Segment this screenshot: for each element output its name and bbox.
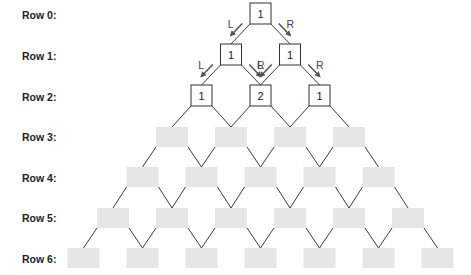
arrow-label: L — [198, 59, 204, 71]
blank-node-box — [304, 248, 336, 268]
edge-line — [113, 187, 127, 208]
edge-line — [277, 187, 291, 208]
direction-arrows: LRLRLR — [198, 18, 324, 77]
row-label-3: Row 3: — [22, 131, 56, 143]
edge-line — [212, 106, 231, 127]
edge-line — [159, 187, 173, 208]
blank-rect — [156, 127, 188, 147]
edge-line — [231, 187, 245, 208]
edge-line — [172, 187, 186, 208]
edge-line — [320, 147, 334, 167]
edge-line — [379, 228, 393, 248]
edge-line — [247, 228, 261, 248]
blank-rect — [186, 248, 218, 268]
edge-line — [202, 65, 221, 85]
row-label-2: Row 2: — [22, 91, 56, 103]
blank-node-box — [274, 208, 306, 228]
nodes: 111121 — [68, 3, 454, 268]
edge-line — [365, 228, 379, 248]
blank-rect — [274, 208, 306, 228]
blank-node-box — [127, 167, 159, 187]
edge-line — [365, 147, 379, 167]
edge-line — [320, 228, 334, 248]
blank-rect — [274, 127, 306, 147]
edge-line — [290, 106, 309, 127]
blank-rect — [422, 248, 454, 268]
edge-line — [143, 147, 157, 167]
arrow-label: L — [257, 59, 263, 71]
edge-line — [395, 187, 409, 208]
edge-line — [349, 187, 363, 208]
edge-line — [202, 147, 216, 167]
blank-node-box — [363, 248, 395, 268]
edge-line — [218, 187, 232, 208]
blank-node-box — [127, 248, 159, 268]
edge-line — [202, 228, 216, 248]
blank-rect — [186, 167, 218, 187]
blank-rect — [215, 127, 247, 147]
edge-line — [143, 228, 157, 248]
blank-rect — [333, 208, 365, 228]
blank-rect — [363, 248, 395, 268]
blank-node-box — [392, 208, 424, 228]
node-box: 1 — [221, 44, 242, 65]
arrow-label: R — [316, 59, 324, 71]
edge-line — [129, 228, 143, 248]
edges — [84, 24, 438, 248]
edge-line — [306, 228, 320, 248]
edge-line — [188, 147, 202, 167]
edge-line — [271, 106, 290, 127]
blank-node-box — [68, 248, 100, 268]
blank-node-box — [156, 208, 188, 228]
edge-line — [231, 24, 250, 44]
node-value: 1 — [228, 49, 234, 61]
edge-line — [336, 187, 350, 208]
blank-node-box — [245, 167, 277, 187]
row-label-0: Row 0: — [22, 9, 56, 21]
blank-node-box — [333, 208, 365, 228]
edge-line — [261, 228, 275, 248]
node-value: 1 — [198, 90, 204, 102]
blank-node-box — [274, 127, 306, 147]
blank-node-box — [245, 248, 277, 268]
blank-rect — [304, 248, 336, 268]
blank-rect — [304, 167, 336, 187]
edge-line — [330, 106, 349, 127]
blank-node-box — [422, 248, 454, 268]
edge-line — [84, 228, 98, 248]
blank-node-box — [186, 167, 218, 187]
node-value: 1 — [316, 90, 322, 102]
blank-node-box — [215, 127, 247, 147]
node-value: 1 — [257, 8, 263, 20]
blank-node-box — [186, 248, 218, 268]
arrow-label: R — [286, 18, 294, 30]
row-label-5: Row 5: — [22, 212, 56, 224]
node-box: 1 — [280, 44, 301, 65]
blank-node-box — [304, 167, 336, 187]
node-box: 1 — [191, 85, 212, 106]
blank-rect — [68, 248, 100, 268]
node-value: 2 — [257, 90, 263, 102]
node-box: 1 — [250, 3, 271, 24]
blank-rect — [97, 208, 129, 228]
node-value: 1 — [287, 49, 293, 61]
blank-node-box — [97, 208, 129, 228]
blank-node-box — [156, 127, 188, 147]
row-labels: Row 0:Row 1:Row 2:Row 3:Row 4:Row 5:Row … — [22, 9, 56, 265]
blank-rect — [392, 208, 424, 228]
blank-node-box — [215, 208, 247, 228]
node-box: 2 — [250, 85, 271, 106]
node-box: 1 — [309, 85, 330, 106]
edge-line — [261, 147, 275, 167]
edge-line — [247, 147, 261, 167]
blank-node-box — [363, 167, 395, 187]
blank-rect — [245, 167, 277, 187]
edge-line — [290, 187, 304, 208]
blank-rect — [156, 208, 188, 228]
row-label-4: Row 4: — [22, 172, 56, 184]
blank-rect — [333, 127, 365, 147]
edge-line — [306, 147, 320, 167]
blank-rect — [127, 167, 159, 187]
row-label-1: Row 1: — [22, 50, 56, 62]
pascal-triangle-diagram: Row 0:Row 1:Row 2:Row 3:Row 4:Row 5:Row … — [0, 0, 471, 275]
